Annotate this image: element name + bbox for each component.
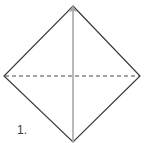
step-number-label: 1. <box>17 123 27 137</box>
origami-diagram-svg <box>0 0 146 143</box>
origami-figure-panel: 1. <box>0 0 146 143</box>
